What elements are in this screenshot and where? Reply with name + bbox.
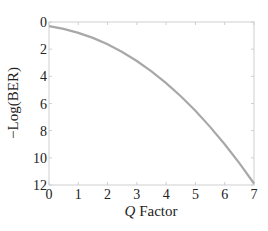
y-tick-label: 12 bbox=[33, 178, 47, 193]
chart: 01234567 024681012 Q Factor −Log(BER) bbox=[0, 0, 268, 231]
x-axis-label-factor: Factor bbox=[135, 203, 177, 219]
y-tick-label: 8 bbox=[40, 124, 47, 139]
y-axis-label: −Log(BER) bbox=[5, 67, 22, 139]
ber-curve bbox=[49, 26, 254, 183]
x-axis-label-q: Q bbox=[125, 203, 136, 219]
x-tick-label: 5 bbox=[192, 187, 199, 202]
y-tick-label: 4 bbox=[40, 69, 47, 84]
x-tick-label: 3 bbox=[133, 187, 140, 202]
x-axis-label: Q Factor bbox=[125, 203, 178, 219]
x-tick-label: 2 bbox=[104, 187, 111, 202]
x-tick-label: 7 bbox=[251, 187, 258, 202]
y-tick-label: 10 bbox=[33, 151, 47, 166]
y-axis-ticks: 024681012 bbox=[33, 15, 254, 193]
x-tick-label: 1 bbox=[75, 187, 82, 202]
x-axis-ticks: 01234567 bbox=[46, 22, 258, 202]
plot-frame bbox=[49, 22, 254, 185]
y-tick-label: 2 bbox=[40, 42, 47, 57]
y-tick-label: 6 bbox=[40, 97, 47, 112]
x-tick-label: 4 bbox=[163, 187, 170, 202]
y-tick-label: 0 bbox=[40, 15, 47, 30]
x-tick-label: 6 bbox=[221, 187, 228, 202]
plot-axes bbox=[49, 22, 254, 185]
